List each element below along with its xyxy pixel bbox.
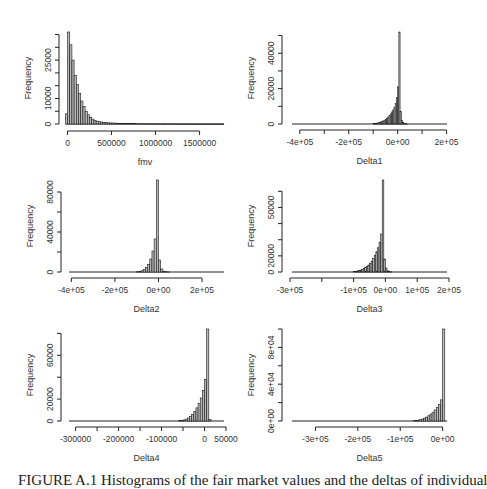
y-tick-label: 0 xyxy=(43,121,53,126)
histogram-bar xyxy=(81,101,83,124)
y-tick-label: 4e+04 xyxy=(266,372,276,396)
y-tick-label: 20000 xyxy=(45,387,55,411)
y-tick-label: 60000 xyxy=(45,343,55,367)
histogram-bar xyxy=(443,329,445,421)
histogram-bar xyxy=(424,418,426,421)
x-axis-label: Delta1 xyxy=(356,156,382,166)
histogram-bar xyxy=(94,120,96,124)
histogram-bar xyxy=(152,251,154,272)
y-axis-label: Frequency xyxy=(25,353,35,396)
x-axis-label: Delta3 xyxy=(356,304,382,314)
x-axis-label: fmv xyxy=(138,157,153,167)
y-tick-label: 25000 xyxy=(43,48,53,72)
x-axis-label: Delta5 xyxy=(356,453,382,463)
histogram-bar xyxy=(87,115,89,124)
x-tick-label: -3e+05 xyxy=(302,434,329,444)
x-tick-label: -3e+05 xyxy=(277,285,304,295)
y-tick-label: 40000 xyxy=(45,220,55,244)
histogram-bar xyxy=(65,114,67,124)
histogram-bar xyxy=(417,420,419,421)
histogram-bar xyxy=(200,398,202,421)
y-tick-label: 0 xyxy=(266,121,276,126)
histogram-panel-delta1: 02000040000Frequency-4e+05-2e+050e+002e+… xyxy=(246,32,459,166)
histogram-panel-delta3: 02000050000Frequency-3e+05-1e+050e+001e+… xyxy=(246,180,461,314)
y-axis-label: Frequency xyxy=(246,56,256,99)
histogram-bar xyxy=(112,123,114,124)
histogram-bar xyxy=(118,123,120,124)
histogram-bar xyxy=(436,407,438,421)
y-axis-label: Frequency xyxy=(25,204,35,247)
x-tick-label: 1000000 xyxy=(139,138,172,148)
histogram-bar xyxy=(148,265,150,273)
histogram-bar xyxy=(163,271,165,272)
x-axis-label: Delta4 xyxy=(133,453,159,463)
histogram-bar xyxy=(92,119,94,124)
histogram-bar xyxy=(141,271,143,272)
histogram-bar xyxy=(103,122,105,124)
bars xyxy=(373,32,407,124)
x-tick-label: -4e+05 xyxy=(58,285,85,295)
x-tick-label: -2e+05 xyxy=(102,285,129,295)
figure-caption: FIGURE A.1 Histograms of the fair market… xyxy=(18,472,487,489)
histogram-bar xyxy=(187,418,189,421)
histogram-bar xyxy=(68,32,70,124)
histogram-bar xyxy=(205,379,207,421)
x-tick-label: 50000 xyxy=(214,434,238,444)
histogram-bar xyxy=(399,32,400,124)
histogram-bar xyxy=(438,404,440,421)
x-tick-label: -200000 xyxy=(103,434,134,444)
histogram-bar xyxy=(198,403,200,421)
x-tick-label: 2e+05 xyxy=(435,137,459,147)
y-axis-label: Frequency xyxy=(246,353,256,396)
y-tick-label: 0 xyxy=(45,269,55,274)
histogram-bar xyxy=(154,239,156,272)
x-tick-label: 1e+05 xyxy=(405,285,429,295)
x-axis-label: Delta2 xyxy=(133,304,159,314)
bars xyxy=(65,32,223,124)
histogram-bar xyxy=(72,60,74,124)
histogram-bar xyxy=(98,122,100,124)
histogram-bar xyxy=(194,412,196,421)
x-tick-label: 2e+05 xyxy=(190,285,214,295)
histogram-bar xyxy=(428,416,430,421)
y-tick-label: 0e+00 xyxy=(266,409,276,433)
histogram-bar xyxy=(181,420,183,421)
histogram-bar xyxy=(426,417,428,421)
histogram-panel-delta2: 04000080000Frequency-4e+05-2e+050e+002e+… xyxy=(25,180,224,314)
x-tick-label: 500000 xyxy=(97,138,126,148)
histogram-bar xyxy=(192,414,194,421)
histogram-bar xyxy=(421,419,423,421)
histogram-bar xyxy=(139,271,141,272)
y-axis-label: Frequency xyxy=(23,56,33,99)
bars xyxy=(179,329,211,421)
histogram-bar xyxy=(158,260,160,272)
y-axis-label: Frequency xyxy=(246,204,256,247)
histogram-bar xyxy=(116,123,118,124)
histogram-bar xyxy=(202,390,204,421)
y-tick-label: 40000 xyxy=(266,41,276,65)
y-tick-label: 50000 xyxy=(266,195,276,219)
histogram-bar xyxy=(183,420,185,421)
histogram-bar xyxy=(161,269,163,272)
histogram-bar xyxy=(156,180,158,272)
x-tick-label: 1500000 xyxy=(183,138,216,148)
histogram-bar xyxy=(79,93,81,124)
histogram-bar xyxy=(207,329,209,421)
histogram-bar xyxy=(107,123,109,124)
x-tick-label: 0 xyxy=(202,434,207,444)
histogram-bar xyxy=(96,121,98,124)
histogram-bar xyxy=(74,75,76,124)
histogram-bar xyxy=(120,123,122,124)
y-tick-label: 20000 xyxy=(266,244,276,268)
x-tick-label: 0e+00 xyxy=(431,434,455,444)
histogram-bar xyxy=(143,270,145,273)
histogram-bar xyxy=(101,122,103,124)
x-tick-label: 0e+00 xyxy=(147,285,171,295)
x-tick-label: -4e+05 xyxy=(286,137,313,147)
histogram-bar xyxy=(85,111,87,124)
histogram-bar xyxy=(382,180,384,272)
x-tick-label: -1e+05 xyxy=(340,285,367,295)
histogram-bar xyxy=(419,420,421,421)
histogram-bar xyxy=(123,123,125,124)
